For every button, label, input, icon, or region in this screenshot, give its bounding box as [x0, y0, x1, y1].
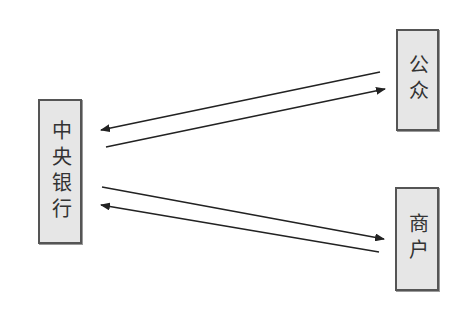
- arrow-central-bank-to-public: [106, 89, 385, 147]
- node-public-label: 公众: [408, 54, 428, 106]
- node-central-bank-label: 中央银行: [50, 120, 70, 224]
- node-central-bank: 中央银行: [38, 99, 82, 244]
- node-merchant-label: 商户: [407, 213, 427, 265]
- diagram-canvas: 中央银行 公众 商户: [0, 0, 468, 318]
- node-public: 公众: [396, 29, 439, 131]
- node-merchant: 商户: [395, 187, 439, 291]
- arrow-public-to-central-bank: [101, 72, 380, 130]
